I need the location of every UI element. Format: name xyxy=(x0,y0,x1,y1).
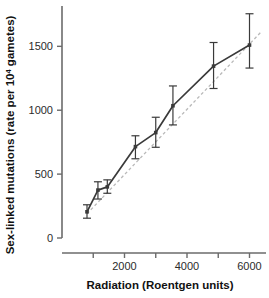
y-tick-label: 1500 xyxy=(29,40,53,52)
x-axis-tick-labels: 200040006000 xyxy=(112,260,261,272)
x-tick-label: 2000 xyxy=(112,260,136,272)
data-point-marker xyxy=(134,145,138,149)
y-tick-label: 500 xyxy=(35,168,53,180)
figure-container: 200040006000 050010001500 Radiation (Roe… xyxy=(0,0,269,298)
chart-axes xyxy=(57,6,266,258)
data-point-marker xyxy=(212,64,216,68)
y-axis-title-tail: gametes) xyxy=(4,15,16,69)
y-axis-tick-labels: 050010001500 xyxy=(29,40,53,244)
fit-line xyxy=(87,31,262,214)
x-axis-title: Radiation (Roentgen units) xyxy=(87,279,234,291)
y-axis-title: Sex-linked mutations (rate per 104 gamet… xyxy=(4,15,17,254)
x-tick-label: 4000 xyxy=(175,260,199,272)
y-tick-label: 1000 xyxy=(29,104,53,116)
radiation-mutation-line-chart: 200040006000 050010001500 Radiation (Roe… xyxy=(0,0,269,298)
data-point-marker xyxy=(154,131,158,135)
y-tick-label: 0 xyxy=(47,232,53,244)
data-point-marker xyxy=(171,104,175,108)
y-axis-title-main: Sex-linked mutations (rate per 10 xyxy=(4,73,16,254)
data-point-marker xyxy=(248,43,252,47)
fitted-trend-line xyxy=(87,31,262,214)
x-tick-label: 6000 xyxy=(237,260,261,272)
data-point-marker xyxy=(106,185,110,189)
data-point-marker xyxy=(85,210,89,214)
data-point-marker xyxy=(96,188,100,192)
